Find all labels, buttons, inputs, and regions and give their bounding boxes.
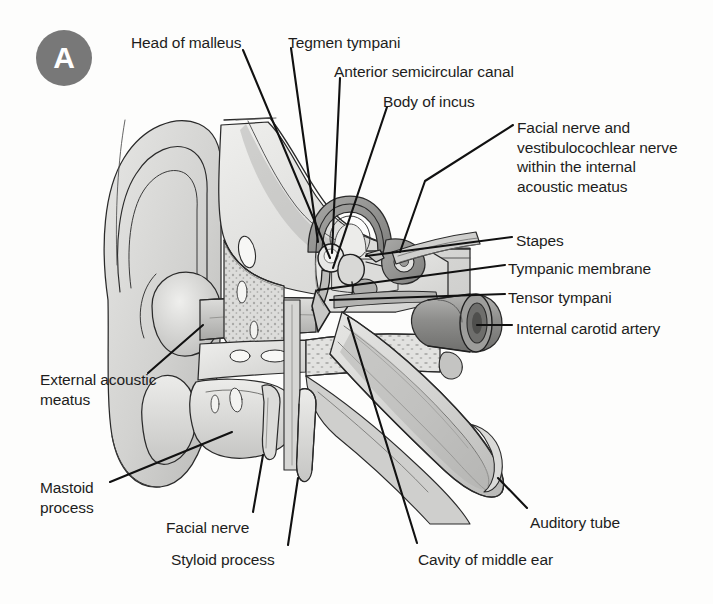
leader-facial-nerve	[253, 455, 263, 512]
label-mastoid-process: Mastoid process	[40, 478, 94, 517]
label-internal-carotid-artery: Internal carotid artery	[516, 319, 660, 339]
leader-auditory-tube	[498, 478, 527, 508]
label-tegmen-tympani: Tegmen tympani	[288, 33, 400, 53]
label-head-of-malleus: Head of malleus	[131, 33, 242, 53]
label-facial-nerve: Facial nerve	[166, 518, 249, 538]
leader-facial-vestibulocochlear	[400, 125, 513, 252]
label-external-acoustic-meatus: External acoustic meatus	[40, 370, 156, 409]
panel-badge-a: A	[36, 30, 92, 86]
label-cavity-of-middle-ear: Cavity of middle ear	[418, 550, 553, 570]
anatomy-figure: A Head of malleusTegmen tympaniAnterior …	[0, 0, 713, 604]
leader-styloid-process	[288, 478, 298, 545]
label-styloid-process: Styloid process	[171, 550, 275, 570]
label-tympanic-membrane: Tympanic membrane	[508, 259, 651, 279]
label-anterior-semicircular-canal: Anterior semicircular canal	[334, 62, 514, 82]
label-body-of-incus: Body of incus	[383, 92, 475, 112]
label-auditory-tube: Auditory tube	[530, 513, 620, 533]
label-facial-vestibulocochlear-nerve: Facial nerve and vestibulocochlear nerve…	[517, 118, 678, 196]
label-tensor-tympani: Tensor tympani	[508, 288, 612, 308]
label-stapes: Stapes	[516, 231, 564, 251]
